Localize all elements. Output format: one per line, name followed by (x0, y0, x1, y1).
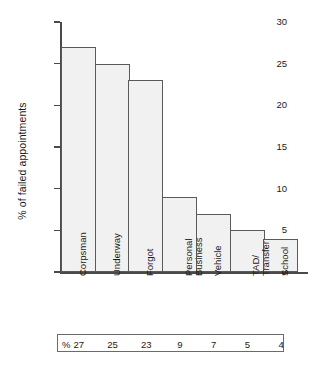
x-label-line: School (279, 247, 290, 276)
y-tick-label-30: 30 (265, 17, 287, 27)
value-table: % 2725239754 (57, 334, 284, 352)
x-label-line: Business (194, 237, 204, 276)
y-tick-label-5: 5 (265, 225, 287, 235)
bar-forgot (128, 80, 163, 272)
x-axis-label-underway: Underway (112, 233, 122, 276)
x-axis-label-vehicle: Vehicle (213, 245, 223, 276)
x-axis-label-corpsman: Corpsman (78, 232, 88, 276)
y-tick-5 (54, 230, 60, 231)
x-label-line: Transfer (261, 241, 271, 276)
y-tick-15 (54, 146, 60, 147)
y-tick-20 (54, 105, 60, 106)
y-tick-0 (54, 271, 60, 272)
y-tick-label-15: 15 (265, 142, 287, 152)
y-tick-30 (54, 21, 60, 22)
y-tick-25 (54, 63, 60, 64)
plot-area: 051015202530 (61, 22, 297, 272)
x-label-line: Corpsman (77, 232, 88, 276)
x-axis-label-forgot: Forgot (145, 249, 155, 276)
x-label-line: Underway (111, 233, 122, 276)
value-table-cell-school: 4 (261, 339, 301, 350)
y-tick-label-20: 20 (265, 100, 287, 110)
y-axis-title: % of failed appointments (16, 71, 28, 251)
y-tick-label-25: 25 (265, 59, 287, 69)
y-tick-10 (54, 188, 60, 189)
x-label-line: Vehicle (212, 245, 223, 276)
x-label-line: Forgot (144, 249, 155, 276)
x-axis-label-personal-business: PersonalBusiness (184, 237, 204, 276)
x-axis-label-tad-transfer: TAD/Transfer (251, 241, 271, 276)
x-axis-label-school: School (280, 247, 290, 276)
bar-chart-figure: % of failed appointments 051015202530 Co… (0, 0, 322, 367)
y-tick-label-10: 10 (265, 184, 287, 194)
